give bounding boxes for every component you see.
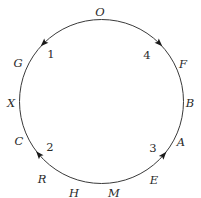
point-label-f: F xyxy=(178,57,188,71)
point-label-h: H xyxy=(68,186,80,198)
point-label-a: A xyxy=(176,135,185,149)
arc-label-4: 4 xyxy=(143,48,150,62)
point-label-m: M xyxy=(107,186,121,198)
point-label-x: X xyxy=(6,96,16,110)
point-label-b: B xyxy=(185,96,194,110)
point-label-g: G xyxy=(13,56,22,70)
arc-label-3: 3 xyxy=(149,141,156,155)
point-label-r: R xyxy=(37,172,47,186)
point-label-o: O xyxy=(95,5,105,19)
arc-label-1: 1 xyxy=(47,47,54,61)
cycle-diagram: O F B A E M H R C X G 1 4 2 3 xyxy=(0,0,201,198)
arc-label-2: 2 xyxy=(46,140,53,154)
point-label-e: E xyxy=(149,173,159,187)
point-label-c: C xyxy=(15,134,24,148)
